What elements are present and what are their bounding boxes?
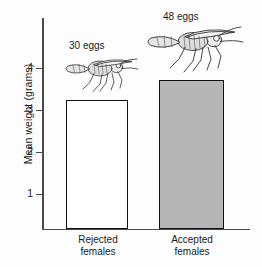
y-tick-mark-1 bbox=[36, 194, 43, 195]
small-fly-illustration-icon bbox=[56, 48, 146, 100]
y-tick-label-2: 2 bbox=[20, 146, 33, 156]
x-label-accepted-line2: females bbox=[155, 246, 229, 258]
y-tick-mark-2 bbox=[36, 152, 43, 153]
bar-accepted-females bbox=[159, 80, 224, 229]
bar-chart-figure: Mean weight (grams) 4 3 2 1 Rejected fem… bbox=[0, 0, 262, 267]
y-axis-line bbox=[42, 18, 44, 230]
x-axis-line bbox=[42, 229, 250, 230]
y-tick-label-4: 4 bbox=[20, 62, 33, 72]
y-tick-mark-4 bbox=[36, 68, 43, 69]
x-label-rejected-line2: females bbox=[62, 246, 134, 258]
x-label-rejected-females: Rejected females bbox=[62, 234, 134, 258]
y-tick-label-1: 1 bbox=[20, 188, 33, 198]
bar-rejected-females bbox=[66, 100, 128, 229]
x-label-rejected-line1: Rejected bbox=[62, 234, 134, 246]
x-label-accepted-line1: Accepted bbox=[155, 234, 229, 246]
large-fly-illustration-icon bbox=[138, 18, 250, 82]
x-label-accepted-females: Accepted females bbox=[155, 234, 229, 258]
y-tick-label-3: 3 bbox=[20, 104, 33, 114]
y-tick-mark-3 bbox=[36, 110, 43, 111]
